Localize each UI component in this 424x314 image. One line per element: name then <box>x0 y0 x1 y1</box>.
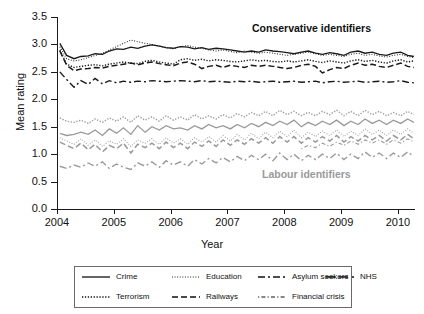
x-tick-mark <box>284 209 285 214</box>
legend-row: CrimeEducationAsylum seekersNHS <box>75 267 351 287</box>
chart-figure: Mean rating Year 0.00.51.01.52.02.53.03.… <box>0 0 424 314</box>
x-tick-mark <box>341 209 342 214</box>
x-tick-mark <box>114 209 115 214</box>
legend-swatch-icon <box>257 272 287 282</box>
legend-item-education[interactable]: Education <box>171 267 242 287</box>
series-line <box>60 152 414 170</box>
x-tick-label: 2007 <box>203 216 251 228</box>
legend-item-railways[interactable]: Railways <box>171 287 238 307</box>
x-tick-label: 2004 <box>33 216 81 228</box>
y-tick-label: 3.5 <box>0 10 47 22</box>
y-tick-label: 1.0 <box>0 147 47 159</box>
legend-label: Terrorism <box>116 293 149 301</box>
legend-label: Financial crisis <box>292 293 344 301</box>
legend-swatch-icon <box>81 272 111 282</box>
legend-item-financial-crisis[interactable]: Financial crisis <box>257 287 344 307</box>
legend-swatch-icon <box>171 272 201 282</box>
series-line <box>60 119 414 135</box>
series-line <box>60 134 414 153</box>
x-tick-label: 2008 <box>260 216 308 228</box>
y-tick-label: 2.5 <box>0 65 47 77</box>
y-tick-label: 2.0 <box>0 92 47 104</box>
x-tick-label: 2005 <box>90 216 138 228</box>
y-tick-label: 3.0 <box>0 37 47 49</box>
legend-label: Education <box>206 273 242 281</box>
series-line <box>60 51 414 73</box>
legend-item-nhs[interactable]: NHS <box>325 267 377 287</box>
y-tick-label: 1.5 <box>0 120 47 132</box>
legend-label: Railways <box>206 293 238 301</box>
legend-swatch-icon <box>325 272 355 282</box>
y-tick-label: 0.0 <box>0 202 47 214</box>
legend-row: TerrorismRailwaysFinancial crisis <box>75 287 351 307</box>
x-tick-mark <box>57 209 58 214</box>
chart-legend: CrimeEducationAsylum seekersNHSTerrorism… <box>74 266 352 308</box>
annotation-conservative-identifiers: Conservative identifiers <box>252 22 371 34</box>
annotation-labour-identifiers: Labour identifiers <box>262 168 351 180</box>
x-tick-label: 2006 <box>147 216 195 228</box>
legend-label: NHS <box>360 273 377 281</box>
legend-swatch-icon <box>257 292 287 302</box>
series-line <box>60 43 414 58</box>
legend-item-terrorism[interactable]: Terrorism <box>81 287 149 307</box>
x-axis-label: Year <box>0 238 424 250</box>
legend-item-crime[interactable]: Crime <box>81 267 137 287</box>
plot-area <box>57 17 415 209</box>
x-axis-line <box>57 209 415 210</box>
x-tick-mark <box>227 209 228 214</box>
x-tick-label: 2010 <box>374 216 422 228</box>
x-tick-mark <box>171 209 172 214</box>
series-line <box>60 72 414 87</box>
plot-lines <box>57 17 415 209</box>
x-tick-mark <box>398 209 399 214</box>
legend-swatch-icon <box>171 292 201 302</box>
legend-swatch-icon <box>81 292 111 302</box>
y-tick-label: 0.5 <box>0 175 47 187</box>
series-line <box>60 110 414 123</box>
x-tick-label: 2009 <box>317 216 365 228</box>
legend-label: Crime <box>116 273 137 281</box>
